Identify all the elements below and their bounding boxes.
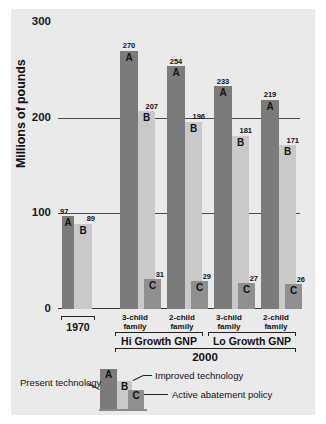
bar-letter: B [190,124,197,134]
group-label-1970: 1970 [44,322,112,333]
y-tick-100: 100 [32,208,51,220]
bar-value: 27 [250,275,258,283]
bar-value: 254 [170,58,183,66]
cat-hi-2child: 2-child family [161,313,203,331]
bar-value: 171 [286,137,299,145]
bar-value: 196 [192,113,205,121]
legend-pointer-improved-tail [144,375,152,376]
bar-hi-3child-C[interactable]: 31 C [144,279,161,309]
bar-value: 181 [239,127,252,135]
y-tick-0: 0 [45,303,51,315]
bar-letter: C [196,283,203,293]
bar-lo-3child-C[interactable]: 27 C [238,283,255,309]
bar-letter: A [219,88,226,98]
bar-value: 26 [297,276,305,284]
plot-area: 300 200 100 0 97 A 89 B 270 A 207 B 31 C… [58,22,300,309]
bar-letter: C [290,286,297,296]
legend-pointer-abatement [144,394,168,395]
bar-value: 207 [145,103,158,111]
group-label-hi-growth: Hi Growth GNP [113,336,205,347]
bar-hi-2child-C[interactable]: 29 C [191,281,208,309]
cat-lo-2child: 2-child family [255,313,297,331]
bar-letter: B [143,113,150,123]
brace-1970 [61,316,95,320]
bar-letter: C [243,285,250,295]
legend-pointer-improved [133,375,144,381]
bar-value: 233 [217,78,230,86]
bar-letter: A [125,53,132,63]
group-label-lo-growth: Lo Growth GNP [206,336,298,347]
cat-hi-3child: 3-child family [114,313,156,331]
y-axis-title: Millions of pounds [14,59,28,168]
bar-lo-2child-C[interactable]: 26 C [285,284,302,309]
bar-letter: B [79,226,86,236]
bar-value: 89 [87,215,95,223]
bar-letter: B [237,138,244,148]
bar-1970-A[interactable]: 97 A [62,216,74,309]
chart-legend: A B C Present technology Improved techno… [0,355,326,417]
bar-letter: A [266,102,273,112]
legend-letter-c: C [132,391,139,401]
bar-value: 31 [156,271,164,279]
y-tick-300: 300 [32,16,51,28]
legend-label-improved: Improved technology [155,371,243,381]
bar-value: 270 [123,42,136,50]
y-tick-200: 200 [32,112,51,124]
bar-value: 219 [264,91,277,99]
legend-swatch-c: C [128,390,144,409]
bar-value: 97 [60,208,68,216]
bar-1970-B[interactable]: 89 B [74,224,92,309]
bar-value: 29 [203,273,211,281]
chart-figure: Millions of pounds 300 200 100 0 97 A 89… [0,0,326,424]
legend-swatch-a: A [100,369,117,409]
legend-label-abatement: Active abatement policy [172,390,272,400]
bar-lo-3child-A[interactable]: 233 A [214,86,232,309]
legend-letter-a: A [105,370,112,380]
legend-baseline [99,409,147,411]
cat-lo-3child: 3-child family [208,313,250,331]
bar-hi-3child-A[interactable]: 270 A [120,51,138,309]
bar-hi-2child-A[interactable]: 254 A [167,66,185,309]
bar-letter: A [64,218,71,228]
bar-letter: C [149,281,156,291]
bar-letter: B [284,147,291,157]
bar-lo-2child-A[interactable]: 219 A [261,100,279,310]
bar-letter: A [172,68,179,78]
